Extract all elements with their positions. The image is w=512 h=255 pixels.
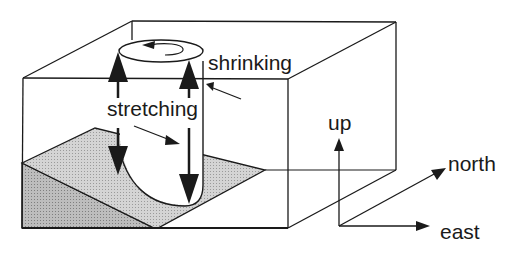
east-arrow-icon bbox=[416, 221, 430, 231]
up-arrow-icon bbox=[334, 138, 344, 151]
label-shrinking: shrinking bbox=[208, 52, 292, 73]
label-stretching: stretching bbox=[106, 98, 199, 119]
vortex-stretching-diagram bbox=[0, 0, 512, 255]
shrinking-pointer-arrow bbox=[206, 82, 241, 99]
label-up: up bbox=[328, 112, 351, 133]
label-east: east bbox=[440, 221, 480, 242]
coordinate-axes bbox=[334, 138, 446, 231]
label-north: north bbox=[448, 153, 496, 174]
